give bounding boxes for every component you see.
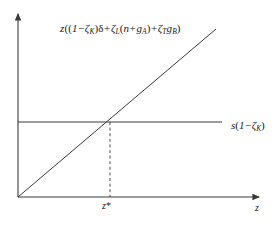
- savings-line-label: s(1−ζK): [231, 120, 265, 131]
- economics-diagram: z((1−ζK)δ+ζL(n+gA)+ζTgB) s(1−ζK) z* z: [0, 0, 279, 229]
- break-even-investment-line: [18, 29, 216, 197]
- curve-equation-label: z((1−ζK)δ+ζL(n+gA)+ζTgB): [60, 23, 181, 34]
- diagram-canvas: [0, 0, 279, 229]
- x-axis-label: z: [255, 203, 259, 213]
- equilibrium-tick-label: z*: [102, 201, 111, 211]
